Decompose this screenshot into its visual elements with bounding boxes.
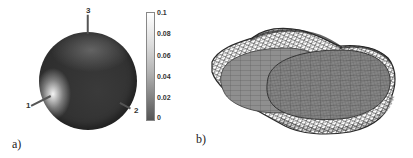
colorbar-tick: 0.02: [157, 94, 171, 101]
colorbar-tick: 0.08: [157, 30, 171, 37]
colorbar: [146, 12, 155, 121]
panel-b: b): [190, 0, 413, 158]
mesh-plot: [190, 0, 413, 158]
sphere-plot: [39, 32, 137, 130]
marker-2-label: 2: [134, 106, 138, 115]
marker-3-line: [87, 15, 89, 34]
panel-a-label: a): [12, 137, 21, 152]
panel-b-label: b): [196, 132, 206, 147]
marker-3-label: 3: [86, 6, 90, 15]
colorbar-tick: 0: [157, 114, 161, 121]
marker-1-label: 1: [26, 101, 30, 110]
colorbar-tick: 0.1: [157, 9, 167, 16]
colorbar-tick: 0.04: [157, 73, 171, 80]
colorbar-tick: 0.06: [157, 52, 171, 59]
panel-a: 3 1 2 0.1 0.08 0.06 0.04 0.02 0 a): [0, 0, 190, 158]
